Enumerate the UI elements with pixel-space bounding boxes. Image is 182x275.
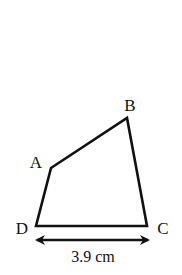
vertex-label-d: D [16,219,28,238]
vertex-label-b: B [124,96,135,115]
quadrilateral-shape [36,118,147,226]
quadrilateral-abcd-diagram: A B C D 3.9 cm [0,0,182,275]
vertex-label-c: C [157,219,168,238]
dimension-label: 3.9 cm [71,248,115,265]
vertex-label-a: A [30,153,43,172]
